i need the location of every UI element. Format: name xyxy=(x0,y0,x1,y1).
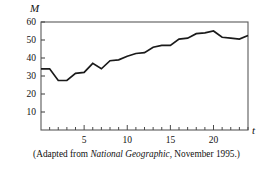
figure-container: M t 102030405060 5101520 (Adapted from N… xyxy=(0,0,273,170)
x-tick-label: 15 xyxy=(166,135,176,145)
y-axis-tick-labels: 102030405060 xyxy=(27,17,37,117)
x-axis-ticks xyxy=(50,125,248,130)
x-tick-label: 10 xyxy=(123,135,133,145)
y-tick-label: 40 xyxy=(27,53,37,63)
x-tick-label: 20 xyxy=(209,135,219,145)
caption-source-italic: National Geographic xyxy=(90,149,169,159)
y-axis-ticks xyxy=(41,22,45,112)
caption-suffix: , November 1995.) xyxy=(170,149,240,159)
y-tick-label: 50 xyxy=(27,35,37,45)
line-chart-plot: 102030405060 5101520 xyxy=(0,0,273,170)
y-tick-label: 30 xyxy=(27,71,37,81)
figure-caption: (Adapted from National Geographic, Novem… xyxy=(0,148,273,160)
y-tick-label: 20 xyxy=(27,89,37,99)
x-axis-tick-labels: 5101520 xyxy=(82,135,219,145)
x-tick-label: 5 xyxy=(82,135,87,145)
data-series-line xyxy=(41,31,248,81)
y-tick-label: 10 xyxy=(27,107,37,117)
caption-prefix: (Adapted from xyxy=(33,149,90,159)
y-tick-label: 60 xyxy=(27,17,37,27)
